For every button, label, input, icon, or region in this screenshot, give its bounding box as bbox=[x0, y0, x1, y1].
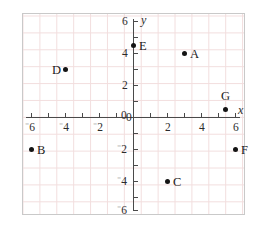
y-tick-label-6: 6 bbox=[122, 16, 128, 28]
y-tick-label-2: 2 bbox=[122, 80, 128, 92]
y-tick-label-neg4: ⁻4 bbox=[117, 176, 127, 188]
point-label-a: A bbox=[190, 48, 199, 61]
point-label-e: E bbox=[139, 40, 147, 53]
x-tick-2 bbox=[167, 113, 168, 117]
x-tick-label-neg4: ⁻4 bbox=[59, 122, 69, 134]
coordinate-plane-figure: ⁻6 ⁻4 ⁻2 0 2 4 6 6 4 2 0 ⁻2 ⁻4 ⁻6 y x A … bbox=[0, 0, 268, 229]
y-tick-neg2 bbox=[134, 149, 138, 150]
point-label-g: G bbox=[221, 90, 230, 103]
point-dot-c bbox=[165, 179, 170, 184]
x-tick-neg3 bbox=[82, 113, 83, 117]
x-tick-label-neg2: ⁻2 bbox=[93, 122, 103, 134]
y-tick-label-zero: 0 bbox=[126, 112, 132, 124]
x-tick-label-6: 6 bbox=[233, 122, 239, 134]
y-tick-neg4 bbox=[134, 181, 138, 182]
point-dot-f bbox=[233, 147, 238, 152]
y-tick-6 bbox=[134, 21, 138, 22]
x-tick-neg4 bbox=[65, 113, 66, 117]
x-tick-neg6 bbox=[31, 113, 32, 117]
y-tick-label-neg2: ⁻2 bbox=[117, 144, 127, 156]
y-tick-label-neg6: ⁻6 bbox=[117, 205, 127, 217]
point-label-b: B bbox=[37, 144, 45, 157]
y-tick-1 bbox=[134, 101, 138, 102]
x-axis-label: x bbox=[238, 104, 243, 116]
x-tick-label-2: 2 bbox=[165, 122, 171, 134]
x-tick-1 bbox=[150, 113, 151, 117]
point-label-d: D bbox=[52, 64, 61, 77]
y-axis-label: y bbox=[141, 14, 146, 26]
x-tick-6 bbox=[235, 113, 236, 117]
x-tick-label-4: 4 bbox=[199, 122, 205, 134]
y-tick-neg6 bbox=[134, 210, 138, 211]
y-tick-neg5 bbox=[134, 197, 138, 198]
x-tick-4 bbox=[201, 113, 202, 117]
x-tick-5 bbox=[218, 113, 219, 117]
point-label-f: F bbox=[241, 144, 248, 157]
y-tick-4 bbox=[134, 53, 138, 54]
y-tick-3 bbox=[134, 69, 138, 70]
x-tick-label-neg6: ⁻6 bbox=[25, 122, 35, 134]
point-dot-d bbox=[63, 67, 68, 72]
y-tick-5 bbox=[134, 37, 138, 38]
x-tick-neg2 bbox=[99, 113, 100, 117]
point-dot-g bbox=[223, 107, 228, 112]
y-tick-neg1 bbox=[134, 133, 138, 134]
y-tick-neg3 bbox=[134, 165, 138, 166]
y-tick-2 bbox=[134, 85, 138, 86]
point-dot-e bbox=[131, 43, 136, 48]
point-label-c: C bbox=[173, 176, 181, 189]
x-tick-neg5 bbox=[48, 113, 49, 117]
point-dot-a bbox=[182, 51, 187, 56]
x-tick-3 bbox=[184, 113, 185, 117]
x-tick-neg1 bbox=[116, 113, 117, 117]
point-dot-b bbox=[29, 147, 34, 152]
y-tick-label-4: 4 bbox=[122, 48, 128, 60]
